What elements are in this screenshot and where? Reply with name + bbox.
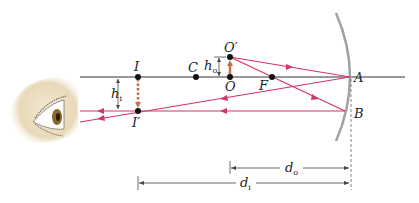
- label-O-prime: O′: [224, 40, 238, 55]
- label-F: F: [258, 78, 269, 93]
- label-d-i: di: [240, 175, 251, 192]
- label-A: A: [353, 70, 363, 85]
- label-C: C: [188, 60, 198, 75]
- label-h-o: ho: [204, 58, 217, 75]
- label-B: B: [353, 106, 364, 121]
- label-I-prime: I′: [131, 115, 140, 130]
- label-I: I: [133, 59, 140, 74]
- label-O: O: [225, 79, 236, 94]
- label-h-i: hi: [111, 86, 122, 103]
- label-d-o: do: [285, 160, 298, 177]
- eye-icon: [10, 78, 78, 143]
- ray-diagram: I I′ C O′ O F A B hi ho do di: [0, 0, 419, 203]
